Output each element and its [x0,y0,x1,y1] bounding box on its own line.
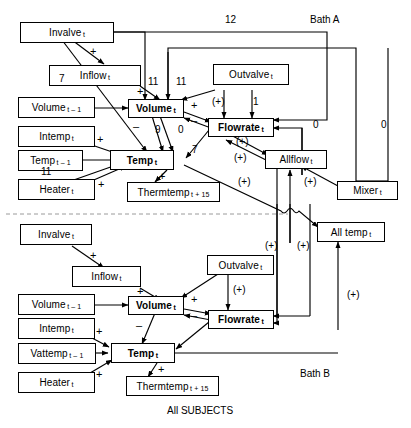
sign-temp-thermtemp-a: + [159,171,165,182]
node-volume-prev-a[interactable]: Volumet – 1 [18,97,95,118]
sign-inflow-volume-b: + [137,286,143,297]
node-heater-b[interactable]: Heatert [18,372,95,393]
node-heater-a[interactable]: Heatert [18,179,95,200]
sign-temp-thermtemp-b: + [158,364,164,375]
edge-volume-flowrate-b [184,309,211,314]
edge-label-heater-temp-11-a: 11 [41,166,51,177]
edge-flowrate-volume-a [184,118,211,128]
edge-label-mixer-allflow-a: (+) [304,176,317,187]
node-subscript: t [153,159,157,166]
edge-label-flowrate-temp-0-a: 0 [178,124,184,135]
node-subscript: t – 1 [66,303,82,310]
node-label: Inflow [80,70,107,81]
edge-volume-flowrate-a [184,112,211,122]
node-thermtemp-a[interactable]: Thermtempt + 15 [127,182,220,202]
node-mixer-a[interactable]: Mixert [337,181,398,200]
node-subscript: t [368,231,372,238]
node-label: Volume [136,103,172,114]
node-label: Flowrate [218,122,260,133]
edge-label-volume-11a: 11 [148,76,158,87]
node-invalve-b[interactable]: Invalvet [20,224,92,245]
node-intemp-a[interactable]: Intempt [18,126,95,147]
node-label: Inflow [91,271,118,282]
edge-invalve-inflow-b [72,246,104,268]
node-label: Allflow [279,154,309,165]
node-subscript: t [70,188,74,195]
node-allflow-a[interactable]: Allflowt [265,150,327,169]
node-label: Thermtemp [137,381,189,392]
node-label: Invalve [49,27,81,38]
sign-intemp-temp-a: + [97,134,103,145]
edge-label-right-pp-b: (+) [347,289,360,300]
node-label: Temp [30,155,55,166]
node-label: Vattemp [31,348,68,359]
node-volume-b[interactable]: Volumet [128,296,184,315]
node-alltemp-a[interactable]: All tempt [317,222,385,242]
node-intemp-b[interactable]: Intempt [18,318,95,339]
node-flowrate-a[interactable]: Flowratet [208,118,274,137]
sign-flowrate-volume-b: – [191,310,197,321]
sign-invalve-inflow-b: + [90,250,96,261]
node-volume-prev-b[interactable]: Volumet – 1 [18,294,95,315]
node-invalve-a[interactable]: Invalvet [20,22,114,43]
node-subscript: t + 15 [189,385,209,392]
node-subscript: t – 1 [55,159,71,166]
edge-label-outvalve-1-a: 1 [253,96,259,107]
node-label: Temp [127,155,153,166]
node-subscript: t [70,135,74,142]
edge-label-invalve-temp-7-a: 7 [59,73,65,84]
sign-volume-flowrate-a: + [191,100,197,111]
sign-flowrate-volume-a: – [191,115,197,126]
node-subscript: t [70,327,74,334]
sign-heater-temp-a: + [98,179,104,190]
edge-label-outvalve-flowrate-b: (+) [233,284,246,295]
node-subscript: t [378,189,382,196]
edge-label-flowrate-temp-7-a: 7 [192,144,198,155]
sign-invalve-inflow-a: + [90,46,96,57]
node-subscript: t [259,264,263,271]
node-subscript: t [172,304,176,311]
edge-label-outvalve-pp-a: (+) [212,96,225,107]
panel-label-bath-b: Bath B [300,368,330,379]
edge-flowrate-volume-b [184,315,211,320]
node-label: Volume [32,102,66,113]
node-label: Thermtemp [138,187,190,198]
node-thermtemp-b[interactable]: Thermtempt + 15 [126,376,219,396]
node-outvalve-b[interactable]: Outvalvet [207,255,274,275]
edge-label-flowrate-zero-a: 0 [313,119,319,130]
node-label: Temp [128,348,154,359]
node-label: Invalve [38,229,70,240]
node-outvalve-a[interactable]: Outvalvet [213,64,289,85]
node-label: Mixer [353,185,378,196]
sign-volume-temp-b: – [136,320,142,331]
edge-label-alltemp-up-b: (+) [297,240,310,251]
edge-temp-thermtemp-b [148,363,157,377]
node-inflow-b[interactable]: Inflowt [72,266,141,287]
node-temp-b[interactable]: Tempt [111,343,175,363]
edge-label-top-12: 12 [225,14,236,25]
node-subscript: t [260,126,264,133]
node-label: Flowrate [218,314,260,325]
node-subscript: t + 15 [190,191,210,198]
node-subscript: t – 1 [68,352,84,359]
node-label: Intemp [39,323,70,334]
node-vattemp-prev-b[interactable]: Vattempt – 1 [18,343,96,364]
node-flowrate-b[interactable]: Flowratet [208,310,274,329]
sign-heater-temp-b: + [96,369,102,380]
node-volume-a[interactable]: Volumet [128,99,184,118]
edge-flowrate-temp-b [176,322,209,349]
sign-inflow-volume-a: + [137,86,143,97]
sign-volume-flowrate-b: + [191,294,197,305]
edge-label-volume-11b: 11 [176,76,186,87]
panel-label-bath-a: Bath A [310,14,339,25]
node-label: Volume [136,300,172,311]
node-subscript: t [260,318,264,325]
edge-outvalve-volume-a [181,90,215,100]
node-subscript: t [70,381,74,388]
node-subscript: t [154,352,158,359]
edge-label-allflow-flowrate-a: (+) [234,152,247,163]
node-subscript: t [118,275,122,282]
node-temp-a[interactable]: Tempt [110,150,174,170]
sign-volume-temp-minus-a: – [133,121,139,132]
node-label: Outvalve [219,260,259,271]
